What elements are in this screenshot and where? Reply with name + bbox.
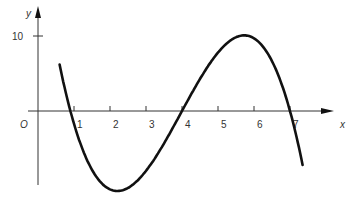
curve-line [60, 35, 303, 191]
cubic-graph: 1234567 10 y x O [0, 0, 353, 204]
x-tick-label: 6 [257, 119, 263, 130]
x-tick-label: 3 [149, 119, 155, 130]
x-ticks: 1234567 [74, 106, 299, 130]
y-tick-label: 10 [12, 31, 24, 42]
y-axis-arrow-icon [35, 6, 41, 18]
x-axis-arrow-icon [321, 108, 334, 114]
x-tick-label: 5 [221, 119, 227, 130]
x-tick-label: 4 [185, 119, 191, 130]
origin-label: O [20, 119, 28, 130]
x-tick-label: 1 [77, 119, 83, 130]
y-axis-label: y [25, 8, 32, 19]
x-axis-label: x [339, 119, 346, 130]
x-tick-label: 2 [113, 119, 119, 130]
chart: 1234567 10 y x O [0, 0, 353, 204]
